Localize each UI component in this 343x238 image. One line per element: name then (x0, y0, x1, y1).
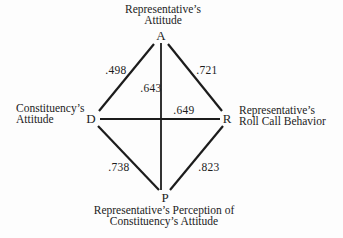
edge-d-p-line (98, 126, 159, 190)
edge-a-p-coefficient: .643 (140, 83, 161, 94)
node-r-letter: R (223, 112, 232, 125)
edge-d-a-line (99, 44, 154, 111)
edge-d-a-coefficient: .498 (105, 65, 126, 76)
node-p-letter: P (161, 191, 168, 204)
node-d-letter: D (86, 112, 95, 125)
node-a-label: Representative’s Attitude (125, 4, 201, 25)
edge-p-r-line (170, 126, 223, 190)
node-p-label: Representative’s Perception of Constitue… (94, 205, 235, 226)
edge-p-r-coefficient: .823 (198, 162, 219, 173)
edge-a-r-coefficient: .721 (196, 65, 217, 76)
edge-d-r-coefficient: .649 (173, 105, 194, 116)
node-d-label-line1: Constituency’s (16, 103, 84, 114)
node-a-letter: A (156, 29, 165, 42)
node-r-label-line2: Roll Call Behavior (239, 116, 326, 127)
node-r-label: Representative’s Roll Call Behavior (239, 105, 326, 126)
node-a-label-line2: Attitude (125, 15, 201, 26)
node-r-label-line1: Representative’s (239, 105, 326, 116)
edge-d-p-coefficient: .738 (108, 162, 129, 173)
node-p-label-line1: Representative’s Perception of (94, 205, 235, 216)
node-d-label: Constituency’s Attitude (16, 103, 84, 124)
node-a-label-line1: Representative’s (125, 4, 201, 15)
path-diagram: Representative’s Attitude Constituency’s… (0, 0, 343, 238)
node-d-label-line2: Attitude (16, 114, 84, 125)
edge-a-r-line (168, 44, 222, 111)
node-p-label-line2: Constituency’s Attitude (94, 216, 235, 227)
